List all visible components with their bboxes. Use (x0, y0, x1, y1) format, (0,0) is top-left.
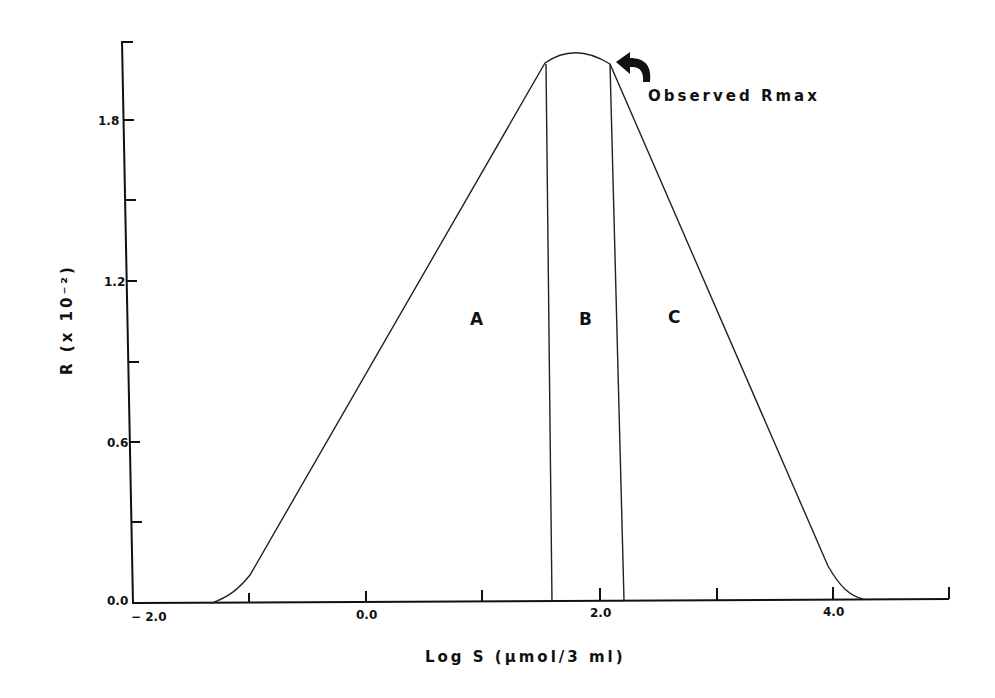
x-tick-2: 2.0 (590, 606, 611, 620)
y-tick-1-2: 1.2 (104, 275, 125, 289)
region-label-a: A (470, 309, 484, 329)
x-tick-0: 0.0 (356, 608, 377, 622)
curved-arrow-icon (616, 52, 650, 82)
region-divider-right (610, 64, 624, 600)
region-divider-left (546, 64, 552, 602)
x-tick-minus-2: − 2.0 (131, 610, 167, 624)
region-label-b: B (579, 309, 592, 329)
annotation-observed-rmax: Observed Rmax (648, 87, 820, 105)
data-curve (212, 53, 863, 603)
x-tick-4: 4.0 (823, 605, 844, 619)
chart-figure: 1.8 1.2 0.6 0.0 − 2.0 0.0 2.0 4.0 A B C … (0, 0, 995, 698)
y-tick-0-6: 0.6 (107, 436, 128, 450)
x-axis (133, 587, 949, 603)
y-axis-title: R (x 10⁻²) (58, 264, 76, 375)
y-tick-0-0: 0.0 (107, 594, 128, 608)
y-axis (122, 41, 142, 604)
region-label-c: C (668, 307, 680, 327)
x-axis-title: Log S (µmol/3 ml) (425, 648, 626, 666)
y-tick-1-8: 1.8 (98, 114, 119, 128)
